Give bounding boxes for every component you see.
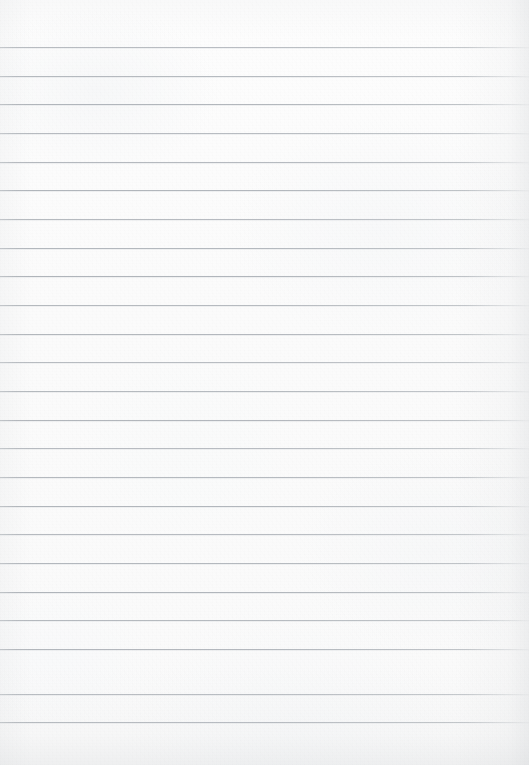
rule-line	[0, 362, 529, 363]
rule-line	[0, 391, 529, 392]
rule-line	[0, 162, 529, 163]
rule-line	[0, 219, 529, 220]
rule-line	[0, 534, 529, 535]
rule-line	[0, 694, 529, 695]
rule-line	[0, 248, 529, 249]
rule-line	[0, 276, 529, 277]
rule-line	[0, 190, 529, 191]
ruled-paper-sheet	[0, 0, 529, 765]
rule-line	[0, 104, 529, 105]
rule-line	[0, 592, 529, 593]
rule-line	[0, 76, 529, 77]
rule-line	[0, 448, 529, 449]
ruled-lines-layer	[0, 0, 529, 765]
rule-line	[0, 420, 529, 421]
rule-line	[0, 722, 529, 723]
rule-line	[0, 305, 529, 306]
rule-line	[0, 47, 529, 48]
rule-line	[0, 334, 529, 335]
rule-line	[0, 506, 529, 507]
rule-line	[0, 133, 529, 134]
rule-line	[0, 477, 529, 478]
rule-line	[0, 649, 529, 650]
rule-line	[0, 620, 529, 621]
rule-line	[0, 563, 529, 564]
